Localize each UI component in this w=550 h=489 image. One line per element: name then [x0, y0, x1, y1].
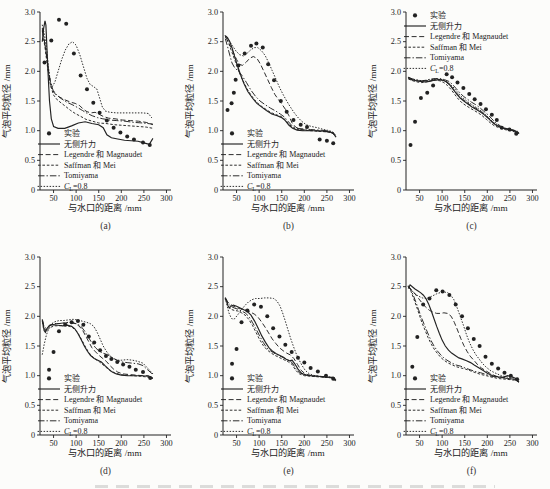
- svg-text:Legendre 和 Magnaudet: Legendre 和 Magnaudet: [430, 395, 509, 404]
- subplot-f: 5010015020025030000.51.01.52.02.53.0与水口的…: [366, 245, 549, 476]
- svg-text:无侧升力: 无侧升力: [247, 384, 279, 394]
- subplot-e-caption: (e): [183, 466, 366, 476]
- svg-text:250: 250: [138, 194, 150, 203]
- subplot-row-top: 5010015020025030000.51.01.52.02.53.0与水口的…: [0, 0, 549, 231]
- svg-text:3.0: 3.0: [25, 253, 35, 262]
- series-shortdash: [225, 299, 336, 382]
- svg-text:Tomiyama: Tomiyama: [64, 171, 99, 180]
- svg-text:无侧升力: 无侧升力: [430, 21, 462, 31]
- series-dash: [408, 287, 519, 383]
- x-axis-label: 与水口的距离 /mm: [251, 202, 324, 213]
- subplot-d-plot: 5010015020025030000.51.01.52.02.53.0与水口的…: [0, 245, 183, 465]
- svg-text:50: 50: [232, 194, 240, 203]
- svg-text:Legendre 和 Magnaudet: Legendre 和 Magnaudet: [64, 150, 143, 159]
- x-axis-label: 与水口的距离 /mm: [251, 447, 324, 458]
- x-axis-label: 与水口的距离 /mm: [68, 447, 141, 458]
- svg-text:Saffman 和 Mei: Saffman 和 Mei: [247, 406, 300, 415]
- subplot-f-caption: (f): [366, 466, 549, 476]
- series-dash: [225, 37, 336, 137]
- svg-text:0: 0: [214, 431, 218, 440]
- experiment-points: [226, 41, 336, 145]
- svg-text:2.0: 2.0: [208, 67, 218, 76]
- svg-text:150: 150: [93, 194, 105, 203]
- series-shortdash: [42, 30, 153, 129]
- svg-text:Tomiyama: Tomiyama: [430, 53, 465, 62]
- experiment-points: [43, 18, 152, 147]
- svg-text:1.0: 1.0: [391, 371, 401, 380]
- svg-text:实验: 实验: [430, 373, 446, 383]
- axes: 5010015020025030000.51.01.52.02.53.0: [208, 253, 356, 448]
- svg-text:2.5: 2.5: [208, 37, 218, 46]
- y-axis-label: 气泡平均粒径 /mm: [184, 64, 195, 137]
- svg-text:Tomiyama: Tomiyama: [430, 416, 465, 425]
- svg-text:300: 300: [160, 194, 172, 203]
- series-dash: [225, 300, 336, 381]
- x-axis-label: 与水口的距离 /mm: [434, 202, 507, 213]
- y-axis-label: 气泡平均粒径 /mm: [1, 309, 12, 382]
- subplot-a: 5010015020025030000.51.01.52.02.53.0与水口的…: [0, 0, 183, 231]
- cropped-caption-strip: [95, 485, 495, 488]
- svg-text:2.0: 2.0: [391, 67, 401, 76]
- svg-text:实验: 实验: [64, 128, 80, 138]
- svg-text:Legendre 和 Magnaudet: Legendre 和 Magnaudet: [430, 32, 509, 41]
- svg-text:250: 250: [504, 194, 516, 203]
- svg-text:100: 100: [70, 194, 82, 203]
- subplot-row-bottom: 5010015020025030000.51.01.52.02.53.0与水口的…: [0, 245, 549, 476]
- svg-text:Saffman 和 Mei: Saffman 和 Mei: [64, 406, 117, 415]
- svg-text:300: 300: [343, 194, 355, 203]
- figure-page: 5010015020025030000.51.01.52.02.53.0与水口的…: [0, 0, 550, 489]
- axes: 5010015020025030000.51.01.52.02.53.0: [391, 253, 539, 448]
- svg-text:100: 100: [436, 439, 448, 448]
- y-axis-label: 气泡平均粒径 /mm: [367, 64, 378, 137]
- svg-text:0.5: 0.5: [208, 156, 218, 165]
- svg-text:300: 300: [343, 439, 355, 448]
- series-dashdot: [408, 286, 519, 382]
- svg-text:Saffman 和 Mei: Saffman 和 Mei: [430, 43, 483, 52]
- svg-text:2.0: 2.0: [391, 312, 401, 321]
- svg-text:1.0: 1.0: [208, 371, 218, 380]
- experiment-points: [410, 288, 519, 381]
- svg-text:150: 150: [276, 439, 288, 448]
- svg-text:实验: 实验: [247, 373, 263, 383]
- svg-text:1.0: 1.0: [208, 126, 218, 135]
- svg-text:0.5: 0.5: [25, 401, 35, 410]
- svg-text:0: 0: [31, 431, 35, 440]
- series-solid: [225, 36, 336, 138]
- svg-text:无侧升力: 无侧升力: [247, 139, 279, 149]
- svg-text:Tomiyama: Tomiyama: [247, 416, 282, 425]
- y-axis-label: 气泡平均粒径 /mm: [1, 64, 12, 137]
- series-dot: [225, 36, 334, 133]
- svg-text:2.5: 2.5: [391, 37, 401, 46]
- svg-text:2.5: 2.5: [208, 282, 218, 291]
- svg-text:Legendre 和 Magnaudet: Legendre 和 Magnaudet: [247, 150, 326, 159]
- svg-text:1.0: 1.0: [25, 371, 35, 380]
- svg-text:Tomiyama: Tomiyama: [64, 416, 99, 425]
- svg-text:CL=0.8: CL=0.8: [64, 427, 87, 437]
- svg-text:150: 150: [276, 194, 288, 203]
- svg-text:50: 50: [49, 439, 57, 448]
- svg-text:2.0: 2.0: [208, 312, 218, 321]
- svg-text:150: 150: [459, 439, 471, 448]
- series-shortdash: [225, 36, 336, 137]
- svg-text:无侧升力: 无侧升力: [64, 384, 96, 394]
- y-axis-label: 气泡平均粒径 /mm: [184, 309, 195, 382]
- svg-text:无侧升力: 无侧升力: [64, 139, 96, 149]
- svg-text:Tomiyama: Tomiyama: [247, 171, 282, 180]
- experiment-points: [47, 319, 152, 380]
- svg-text:3.0: 3.0: [391, 8, 401, 17]
- svg-text:CL=0.8: CL=0.8: [430, 64, 453, 74]
- svg-text:0.5: 0.5: [391, 156, 401, 165]
- svg-text:200: 200: [298, 439, 310, 448]
- series-dot: [42, 319, 153, 374]
- subplot-c-caption: (c): [366, 221, 549, 231]
- series-dot: [225, 298, 336, 381]
- series-solid: [408, 285, 519, 382]
- subplot-c-plot: 5010015020025030000.51.01.52.02.53.0与水口的…: [366, 0, 549, 220]
- svg-text:200: 200: [481, 194, 493, 203]
- svg-text:1.5: 1.5: [25, 342, 35, 351]
- svg-text:3.0: 3.0: [25, 8, 35, 17]
- svg-text:0.5: 0.5: [25, 156, 35, 165]
- svg-text:1.5: 1.5: [391, 342, 401, 351]
- subplot-e: 5010015020025030000.51.01.52.02.53.0与水口的…: [183, 245, 366, 476]
- svg-text:100: 100: [253, 439, 265, 448]
